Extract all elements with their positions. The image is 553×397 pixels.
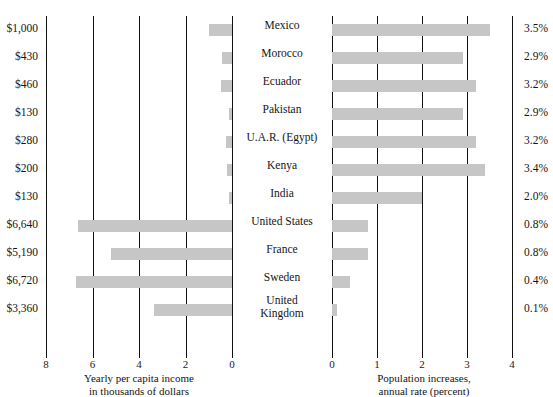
income-label-row: $280 [0, 128, 46, 156]
ticklabel-income-0: 0 [220, 358, 244, 370]
gridline-population-4 [512, 16, 513, 352]
ticklabel-population-1: 1 [365, 358, 389, 370]
population-bar [332, 52, 463, 64]
right-axis-caption-line2: annual rate (percent) [332, 385, 516, 397]
percent-label-row: 3.2% [516, 72, 553, 100]
ticklabel-income-8: 8 [34, 358, 58, 370]
percent-label-row: 0.1% [516, 296, 553, 324]
country-name-line1: Kenya [232, 159, 332, 172]
income-row [46, 184, 232, 212]
percent-value-label: 0.4% [524, 274, 548, 286]
income-row [46, 156, 232, 184]
population-bar [332, 304, 337, 316]
income-bar [78, 220, 232, 232]
income-value-label: $3,360 [6, 302, 38, 314]
percent-value-label: 3.2% [524, 134, 548, 146]
percent-value-label: 0.8% [524, 246, 548, 258]
population-bar [332, 164, 485, 176]
country-name: Kenya [232, 159, 332, 172]
country-row: Mexico [232, 16, 332, 44]
country-name-line1: United States [232, 215, 332, 228]
income-value-label: $5,190 [6, 246, 38, 258]
country-name-line1: United [232, 294, 332, 307]
income-label-row: $6,640 [0, 212, 46, 240]
population-row [332, 100, 512, 128]
population-row [332, 156, 512, 184]
population-row [332, 72, 512, 100]
income-label-row: $3,360 [0, 296, 46, 324]
percent-label-column: 3.5%2.9%3.2%2.9%3.2%3.4%2.0%0.8%0.8%0.4%… [516, 0, 553, 352]
country-row: Morocco [232, 44, 332, 72]
income-plot-area: 86420 [46, 0, 232, 352]
country-name: Sweden [232, 271, 332, 284]
income-label-row: $130 [0, 184, 46, 212]
country-name: France [232, 243, 332, 256]
population-bar [332, 136, 476, 148]
population-row [332, 268, 512, 296]
left-axis-caption-line1: Yearly per capita income [46, 372, 232, 385]
percent-value-label: 3.2% [524, 78, 548, 90]
right-axis-caption-line1: Population increases, [332, 372, 516, 385]
income-label-row: $430 [0, 44, 46, 72]
income-row [46, 72, 232, 100]
ticklabel-income-4: 4 [127, 358, 151, 370]
percent-label-row: 3.2% [516, 128, 553, 156]
country-name-line2: Kingdom [232, 307, 332, 320]
country-row: Pakistan [232, 100, 332, 128]
population-bar [332, 276, 350, 288]
percent-label-row: 2.9% [516, 44, 553, 72]
country-row: Sweden [232, 268, 332, 296]
country-name: Morocco [232, 47, 332, 60]
country-name-column: MexicoMoroccoEcuadorPakistanU.A.R. (Egyp… [232, 0, 332, 352]
income-row [46, 212, 232, 240]
income-bar [222, 52, 232, 64]
percent-label-row: 2.0% [516, 184, 553, 212]
country-row: France [232, 240, 332, 268]
income-label-row: $5,190 [0, 240, 46, 268]
country-name: U.A.R. (Egypt) [232, 131, 332, 144]
right-axis-caption: Population increases, annual rate (perce… [332, 372, 516, 397]
population-row [332, 44, 512, 72]
income-value-label: $1,000 [6, 22, 38, 34]
income-bar [209, 24, 232, 36]
income-row [46, 128, 232, 156]
income-value-label: $6,640 [6, 218, 38, 230]
percent-value-label: 2.9% [524, 106, 548, 118]
ticklabel-income-2: 2 [174, 358, 198, 370]
income-label-row: $200 [0, 156, 46, 184]
income-value-label: $200 [15, 162, 38, 174]
percent-label-row: 2.9% [516, 100, 553, 128]
country-name-line1: U.A.R. (Egypt) [232, 131, 332, 144]
percent-value-label: 3.4% [524, 162, 548, 174]
country-row: Ecuador [232, 72, 332, 100]
ticklabel-population-4: 4 [500, 358, 524, 370]
population-row [332, 240, 512, 268]
population-row [332, 296, 512, 324]
income-value-label: $130 [15, 190, 38, 202]
country-name-line1: Mexico [232, 19, 332, 32]
income-label-row: $1,000 [0, 16, 46, 44]
population-row [332, 16, 512, 44]
ticklabel-population-0: 0 [320, 358, 344, 370]
country-name: United States [232, 215, 332, 228]
income-value-label: $6,720 [6, 274, 38, 286]
percent-value-label: 2.9% [524, 50, 548, 62]
country-name: India [232, 187, 332, 200]
country-row: United States [232, 212, 332, 240]
population-row [332, 212, 512, 240]
percent-value-label: 0.8% [524, 218, 548, 230]
population-bar [332, 24, 490, 36]
country-name: Ecuador [232, 75, 332, 88]
income-row [46, 44, 232, 72]
country-row: Kenya [232, 156, 332, 184]
country-row: U.A.R. (Egypt) [232, 128, 332, 156]
percent-value-label: 0.1% [524, 302, 548, 314]
percent-label-row: 0.8% [516, 212, 553, 240]
left-axis-caption: Yearly per capita income in thousands of… [46, 372, 232, 397]
percent-label-row: 3.4% [516, 156, 553, 184]
income-row [46, 268, 232, 296]
country-name-line1: Sweden [232, 271, 332, 284]
income-label-column: $1,000$430$460$130$280$200$130$6,640$5,1… [0, 0, 46, 352]
percent-label-row: 0.4% [516, 268, 553, 296]
income-label-row: $130 [0, 100, 46, 128]
